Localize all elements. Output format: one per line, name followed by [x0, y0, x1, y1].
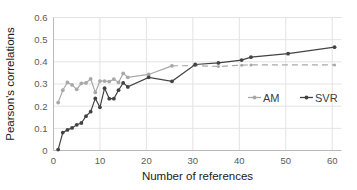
data-point-svr-21: [249, 55, 253, 59]
data-point-am-3: [70, 83, 74, 87]
data-point-am-4: [75, 87, 79, 91]
data-point-svr-1: [61, 131, 65, 135]
data-point-svr-16: [147, 75, 151, 79]
y-tick-label-4: 0.4: [34, 56, 47, 67]
y-tick-label-6: 0.6: [34, 12, 47, 23]
y-tick-label-1: 0.1: [34, 123, 47, 134]
x-tick-label-1: 10: [95, 155, 106, 166]
data-point-svr-19: [217, 61, 221, 65]
data-point-am-17: [170, 64, 174, 68]
data-point-am-9: [98, 79, 102, 83]
data-point-am-20: [240, 64, 243, 67]
data-point-am-14: [121, 71, 125, 75]
chart-canvas: 00.10.20.30.40.50.60102030405060Number o…: [0, 0, 357, 190]
data-point-svr-2: [66, 128, 70, 132]
y-tick-label-2: 0.2: [34, 101, 47, 112]
data-point-am-1: [61, 88, 65, 92]
data-point-svr-7: [89, 110, 93, 114]
data-point-svr-14: [121, 81, 125, 85]
data-point-svr-4: [75, 123, 79, 127]
data-point-svr-13: [117, 88, 121, 92]
data-point-svr-0: [56, 148, 60, 152]
data-point-am-10: [103, 79, 107, 83]
data-point-svr-6: [84, 114, 88, 118]
legend-marker-am: [253, 96, 257, 100]
data-point-svr-23: [333, 45, 337, 49]
data-point-am-11: [107, 80, 111, 84]
x-axis-title: Number of references: [142, 170, 253, 182]
data-point-am-0: [56, 101, 60, 105]
legend-marker-svr: [305, 96, 309, 100]
data-point-svr-20: [240, 58, 244, 62]
y-axis-title: Pearson's correlations: [4, 27, 16, 141]
legend-label-am: AM: [263, 92, 280, 104]
y-tick-label-5: 0.5: [34, 34, 47, 45]
x-tick-label-5: 50: [280, 155, 291, 166]
x-tick-label-0: 0: [51, 155, 56, 166]
data-point-am-22: [333, 63, 336, 66]
x-tick-label-4: 40: [234, 155, 245, 166]
data-point-svr-8: [93, 97, 97, 101]
data-point-svr-11: [107, 97, 111, 101]
data-point-am-7: [89, 77, 93, 81]
data-point-svr-12: [112, 97, 116, 101]
data-point-am-13: [117, 81, 121, 85]
data-point-svr-5: [79, 121, 83, 125]
data-point-svr-17: [170, 79, 174, 83]
data-point-am-6: [84, 81, 88, 85]
legend-label-svr: SVR: [315, 92, 338, 104]
y-tick-label-3: 0.3: [34, 78, 47, 89]
data-point-svr-18: [193, 63, 197, 67]
pearson-correlations-line-chart: 00.10.20.30.40.50.60102030405060Number o…: [0, 0, 357, 190]
data-point-am-5: [79, 81, 83, 85]
data-point-am-2: [66, 81, 70, 85]
data-point-svr-9: [98, 105, 102, 109]
data-point-svr-22: [286, 52, 290, 56]
x-tick-label-2: 20: [141, 155, 152, 166]
data-point-am-15: [126, 75, 130, 79]
x-tick-label-6: 60: [327, 155, 338, 166]
data-point-svr-15: [126, 85, 130, 89]
x-tick-label-3: 30: [188, 155, 199, 166]
data-point-svr-3: [70, 126, 74, 130]
data-point-am-8: [93, 91, 97, 95]
data-point-am-19: [217, 65, 220, 68]
data-point-am-21: [249, 63, 252, 66]
data-point-am-12: [112, 77, 116, 81]
y-tick-label-0: 0: [42, 145, 47, 156]
data-point-svr-10: [103, 86, 107, 90]
